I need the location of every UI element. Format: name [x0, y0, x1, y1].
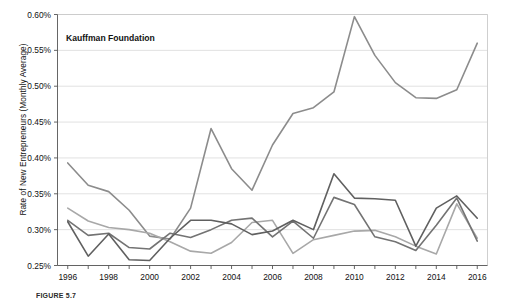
- figure-caption: FIGURE 5.7: [36, 292, 76, 303]
- figure-container: 0.60%0.55%0.50%0.45%0.40%0.35%0.30%0.25%…: [0, 0, 506, 303]
- y-tick-label: 0.55%: [27, 45, 51, 55]
- chart-plot-area: 0.60%0.55%0.50%0.45%0.40%0.35%0.30%0.25%…: [0, 0, 506, 288]
- x-tick-marks-group: [68, 266, 478, 270]
- y-tick-label: 0.50%: [27, 81, 51, 91]
- x-tick-label: 2002: [181, 272, 200, 282]
- x-tick-label: 1998: [99, 272, 118, 282]
- y-tick-label: 0.35%: [27, 189, 51, 199]
- kauffman-foundation-label: Kauffman Foundation: [66, 33, 155, 43]
- x-tick-label: 2000: [140, 272, 159, 282]
- chart-annotation-group: Kauffman Foundation: [66, 33, 155, 43]
- y-tick-label: 0.60%: [27, 10, 51, 20]
- x-tick-label: 2004: [222, 272, 241, 282]
- y-axis-title: Rate of New Entrepreneurs (Monthly Avera…: [19, 30, 28, 230]
- y-tick-label: 0.25%: [27, 261, 51, 271]
- x-tick-label: 2006: [263, 272, 282, 282]
- x-tick-label: 1996: [58, 272, 77, 282]
- line-chart-svg: 0.60%0.55%0.50%0.45%0.40%0.35%0.30%0.25%…: [0, 0, 506, 288]
- chart-background: [0, 0, 506, 288]
- x-tick-label: 2008: [304, 272, 323, 282]
- x-tick-label: 2016: [468, 272, 487, 282]
- y-tick-label: 0.30%: [27, 225, 51, 235]
- y-tick-label: 0.45%: [27, 117, 51, 127]
- x-tick-label: 2014: [427, 272, 446, 282]
- x-tick-label: 2010: [345, 272, 364, 282]
- y-tick-label: 0.40%: [27, 153, 51, 163]
- x-tick-label: 2012: [386, 272, 405, 282]
